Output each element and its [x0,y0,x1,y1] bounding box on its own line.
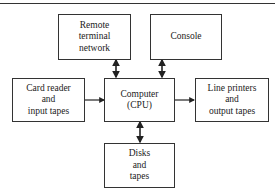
node-label: Computer (CPU) [121,89,159,112]
node-console: Console [150,14,222,60]
node-remote-terminal-network: Remote terminal network [58,14,131,60]
node-line-printers: Line printers and output tapes [195,78,269,122]
node-card-reader: Card reader and input tapes [12,78,85,122]
node-disks-and-tapes: Disks and tapes [104,143,175,188]
node-label: Disks and tapes [129,148,151,183]
node-label: Card reader and input tapes [26,83,71,118]
node-label: Remote terminal network [79,20,111,55]
node-computer-cpu: Computer (CPU) [104,78,175,122]
node-label: Line printers and output tapes [208,83,257,118]
node-label: Console [170,31,201,43]
